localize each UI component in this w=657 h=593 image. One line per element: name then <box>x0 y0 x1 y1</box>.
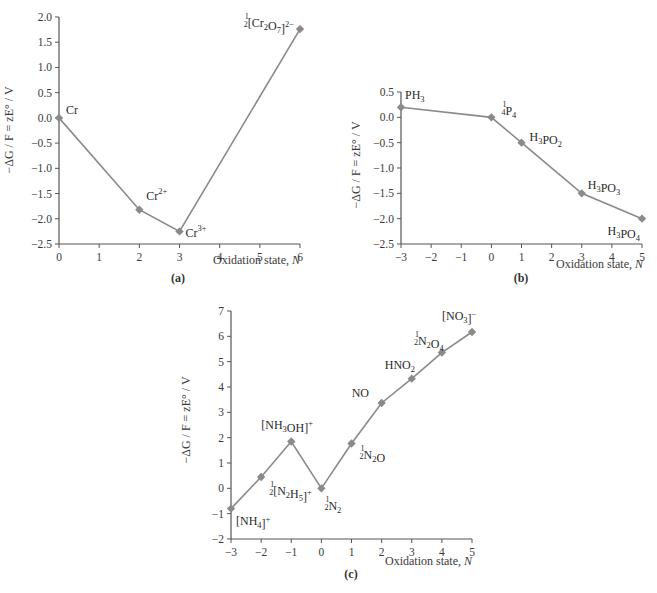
diamond-marker <box>638 214 646 222</box>
x-tick-label: 2 <box>549 251 555 263</box>
y-tick-label: 1.0 <box>38 61 53 73</box>
point-label: H3PO4 <box>607 224 640 243</box>
y-tick-label: 0.5 <box>38 87 53 99</box>
x-tick-label: 2 <box>136 251 142 263</box>
y-tick-label: 0.5 <box>380 86 395 98</box>
point-label: [NH3OH]+ <box>261 418 313 435</box>
y-tick-label: −1.0 <box>373 162 394 174</box>
point-label: 12N2 <box>324 495 341 515</box>
diamond-marker <box>175 227 183 235</box>
chart-caption: (b) <box>514 271 529 285</box>
x-axis-label: Oxidation state, N <box>213 253 301 267</box>
point-label: Cr3+ <box>186 223 207 240</box>
x-tick-label: −3 <box>225 546 237 558</box>
point-label: H3PO3 <box>588 178 621 197</box>
point-label: 12[Cr2O7]2− <box>244 12 294 36</box>
chart-caption: (a) <box>171 271 185 285</box>
x-tick-label: −2 <box>425 251 437 263</box>
y-tick-label: 6 <box>218 330 224 342</box>
y-tick-label: 0 <box>218 482 224 494</box>
y-tick-label: 0.0 <box>38 112 53 124</box>
y-tick-label: −1.0 <box>31 162 52 174</box>
y-tick-label: −0.5 <box>373 137 394 149</box>
y-tick-label: 2.0 <box>38 11 53 23</box>
point-label: Cr2+ <box>146 186 167 203</box>
y-tick-label: −1 <box>212 508 224 520</box>
y-tick-label: −1.5 <box>373 187 394 199</box>
point-label: 12N2O4 <box>414 330 445 353</box>
x-axis-label: Oxidation state, N <box>556 257 644 271</box>
y-tick-label: 4 <box>218 381 224 393</box>
y-tick-label: −1.5 <box>31 188 52 200</box>
y-tick-label: 1 <box>218 457 224 469</box>
y-axis-label: −ΔG / F = zE° / V <box>2 86 16 173</box>
x-tick-label: −1 <box>285 546 297 558</box>
x-tick-label: 3 <box>177 251 183 263</box>
x-tick-label: 0 <box>489 251 495 263</box>
y-tick-label: 7 <box>218 305 224 317</box>
x-tick-label: 1 <box>96 251 102 263</box>
x-tick-label: 1 <box>349 546 355 558</box>
y-axis-label: −ΔG / F = zE° / V <box>179 376 193 463</box>
y-tick-label: 3 <box>218 406 224 418</box>
y-axis-label: −ΔG / F = zE° / V <box>349 121 363 208</box>
y-tick-label: 0.0 <box>380 111 395 123</box>
y-tick-label: −2.5 <box>31 238 52 250</box>
x-tick-label: 0 <box>56 251 62 263</box>
y-tick-label: −2 <box>212 533 224 545</box>
point-label: H3PO2 <box>530 130 563 149</box>
chart-c: 76543210−1−2−3−2−1012345Oxidation state,… <box>179 305 477 581</box>
x-tick-label: −3 <box>395 251 407 263</box>
figure-canvas: 2.01.51.00.50.0−0.5−1.0−1.5−2.0−2.501234… <box>0 0 657 593</box>
point-label: Cr <box>66 103 78 117</box>
point-label: NO <box>352 386 370 400</box>
x-tick-label: −1 <box>455 251 467 263</box>
y-tick-label: −2.0 <box>373 213 394 225</box>
diamond-marker <box>397 103 405 111</box>
y-tick-label: 1.5 <box>38 36 53 48</box>
y-tick-label: 5 <box>218 356 224 368</box>
point-label: 12N2O <box>360 444 386 465</box>
x-tick-label: 0 <box>319 546 325 558</box>
y-tick-label: −0.5 <box>31 137 52 149</box>
y-tick-label: −2.5 <box>373 238 394 250</box>
diamond-marker <box>296 25 304 33</box>
point-label: 14P4 <box>501 100 517 120</box>
chart-caption: (c) <box>344 567 357 581</box>
diamond-marker <box>317 484 325 492</box>
chart-a: 2.01.51.00.50.0−0.5−1.0−1.5−2.0−2.501234… <box>2 11 304 285</box>
point-label: [NO3]− <box>442 309 477 326</box>
y-tick-label: −2.0 <box>31 213 52 225</box>
x-tick-label: 1 <box>519 251 525 263</box>
point-label: 12[N2H5]+ <box>269 480 312 504</box>
series-line <box>59 29 300 231</box>
point-label: [NH4]+ <box>236 514 271 531</box>
chart-b: 0.50.0−0.5−1.0−1.5−2.0−2.5−3−2−1012345Ox… <box>349 86 646 285</box>
x-axis-label: Oxidation state, N <box>385 554 473 568</box>
series-line <box>401 107 642 218</box>
point-label: PH3 <box>405 88 425 104</box>
x-tick-label: −2 <box>255 546 267 558</box>
y-tick-label: 2 <box>218 432 224 444</box>
x-tick-label: 2 <box>379 546 385 558</box>
point-label: HNO2 <box>385 358 415 374</box>
